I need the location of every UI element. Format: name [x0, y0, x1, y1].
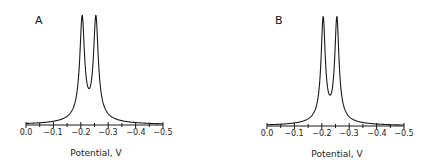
tick-label: −0.4 — [367, 129, 386, 138]
tick-label: 0.0 — [20, 128, 33, 137]
tick-label: −0.5 — [394, 129, 413, 138]
voltammogram-a — [0, 0, 218, 167]
voltammogram-curve — [267, 16, 404, 125]
voltammogram-b — [218, 0, 436, 167]
panel-a: A 0.0 −0.1 −0.2 −0.3 −0.4 −0.5 Potential… — [0, 0, 218, 167]
tick-label: −0.3 — [98, 128, 117, 137]
tick-label: 0.0 — [261, 129, 274, 138]
x-axis-label-a: Potential, V — [70, 148, 121, 158]
tick-label: −0.1 — [284, 129, 303, 138]
voltammogram-curve — [26, 15, 163, 124]
x-axis-label-b: Potential, V — [311, 149, 362, 159]
panel-b: B 0.0 −0.1 −0.2 −0.3 −0.4 −0.5 Potential… — [218, 0, 436, 167]
tick-label: −0.5 — [153, 128, 172, 137]
tick-label: −0.2 — [312, 129, 331, 138]
tick-label: −0.1 — [43, 128, 62, 137]
tick-label: −0.4 — [126, 128, 145, 137]
tick-label: −0.2 — [71, 128, 90, 137]
tick-label: −0.3 — [339, 129, 358, 138]
